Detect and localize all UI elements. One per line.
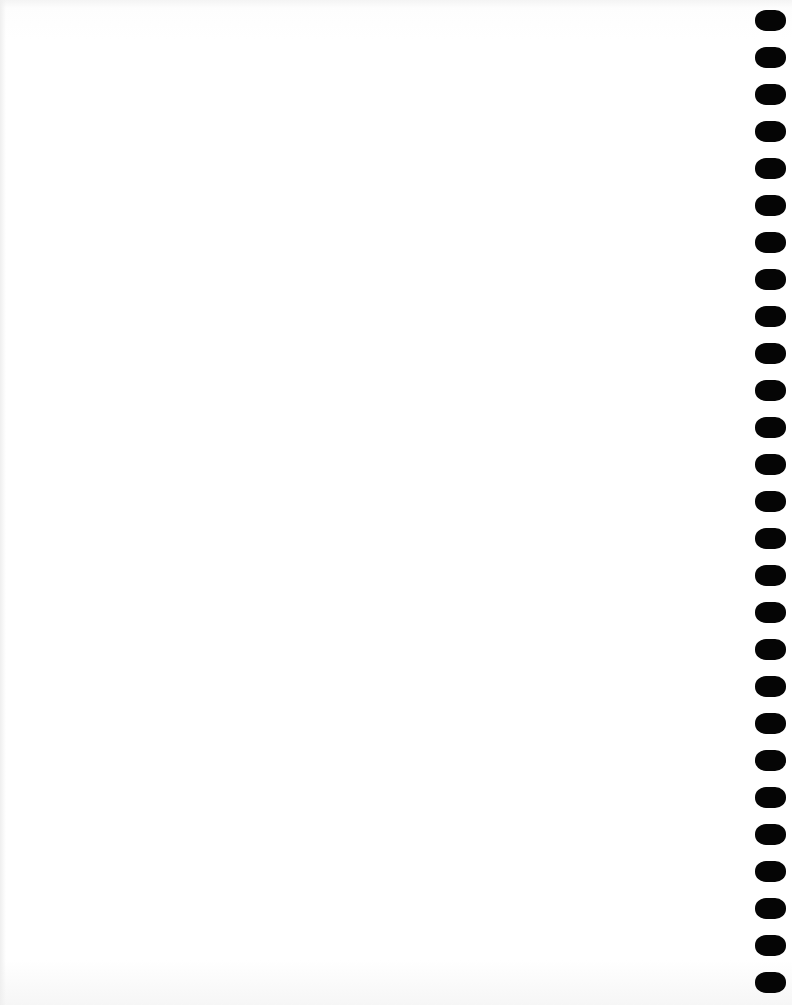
binding-hole — [755, 861, 786, 882]
binding-hole — [755, 84, 786, 105]
spiral-binding-holes — [755, 0, 787, 1005]
page-edge-shadow — [0, 0, 6, 1005]
binding-hole — [755, 972, 786, 993]
binding-hole — [755, 935, 786, 956]
binding-hole — [755, 676, 786, 697]
binding-hole — [755, 47, 786, 68]
binding-hole — [755, 491, 786, 512]
binding-hole — [755, 121, 786, 142]
binding-hole — [755, 787, 786, 808]
binding-hole — [755, 528, 786, 549]
binding-hole — [755, 898, 786, 919]
binding-hole — [755, 824, 786, 845]
binding-hole — [755, 195, 786, 216]
binding-hole — [755, 269, 786, 290]
binding-hole — [755, 639, 786, 660]
binding-hole — [755, 454, 786, 475]
binding-hole — [755, 713, 786, 734]
binding-hole — [755, 158, 786, 179]
binding-hole — [755, 417, 786, 438]
binding-hole — [755, 306, 786, 327]
binding-hole — [755, 343, 786, 364]
binding-hole — [755, 750, 786, 771]
binding-hole — [755, 232, 786, 253]
binding-hole — [755, 565, 786, 586]
binding-hole — [755, 602, 786, 623]
binding-hole — [755, 10, 786, 31]
binding-hole — [755, 380, 786, 401]
notebook-page — [0, 0, 792, 1005]
